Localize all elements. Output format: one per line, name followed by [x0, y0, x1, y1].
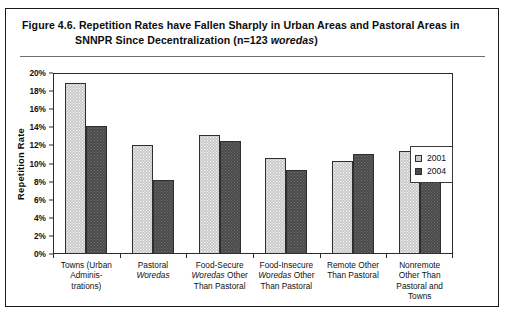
y-axis-tick-label: 10%: [29, 159, 46, 169]
x-axis-labels: Towns (UrbanAdminis-trations)PastoralWor…: [53, 260, 453, 306]
x-axis-category-label: NonremoteOther ThanPastoral andTowns: [378, 260, 461, 302]
y-axis-tick-label: 14%: [29, 122, 46, 132]
x-axis-tick-mark: [320, 254, 321, 258]
bar-2001-1: [65, 83, 86, 254]
bar-2004-5: [353, 154, 374, 254]
x-axis-tick-mark: [53, 254, 54, 258]
legend-swatch-2001: [415, 155, 422, 162]
legend-label-2004: 2004: [427, 166, 446, 176]
x-axis-ticks: [53, 254, 453, 259]
bar-2004-3: [220, 141, 241, 254]
bars-layer: [53, 73, 453, 254]
y-axis-tick-label: 4%: [34, 213, 46, 223]
x-axis-tick-mark: [386, 254, 387, 258]
y-axis-tick-label: 18%: [29, 86, 46, 96]
bar-2001-2: [132, 145, 153, 254]
x-axis-tick-mark: [452, 254, 453, 258]
x-axis-tick-mark: [186, 254, 187, 258]
legend-item: 2001: [415, 152, 446, 164]
bar-2001-4: [265, 158, 286, 254]
legend-item: 2004: [415, 165, 446, 177]
legend-label-2001: 2001: [427, 153, 446, 163]
y-axis-tick-label: 2%: [34, 231, 46, 241]
chart-legend: 20012004: [410, 146, 453, 183]
y-axis-tick-label: 16%: [29, 104, 46, 114]
y-axis: 0%2%4%6%8%10%12%14%16%18%20%: [6, 73, 53, 254]
y-axis-tick-label: 6%: [34, 195, 46, 205]
y-axis-tick-label: 20%: [29, 68, 46, 78]
bar-group: [253, 73, 320, 254]
bar-group: [320, 73, 387, 254]
legend-swatch-2004: [415, 168, 422, 175]
bar-group: [186, 73, 253, 254]
bar-2004-4: [286, 170, 307, 254]
y-axis-tick-label: 0%: [34, 249, 46, 259]
bar-group: [120, 73, 187, 254]
bar-2001-3: [199, 135, 220, 254]
x-axis-tick-mark: [253, 254, 254, 258]
y-axis-tick-label: 12%: [29, 140, 46, 150]
x-axis-tick-mark: [120, 254, 121, 258]
bar-2004-2: [153, 180, 174, 254]
bar-chart: Repetition Rate 0%2%4%6%8%10%12%14%16%18…: [6, 9, 500, 308]
figure-frame: Figure 4.6. Repetition Rates have Fallen…: [5, 8, 499, 307]
bar-group: [53, 73, 120, 254]
bar-2001-5: [332, 161, 353, 254]
y-axis-tick-label: 8%: [34, 177, 46, 187]
bar-2004-1: [86, 126, 107, 255]
